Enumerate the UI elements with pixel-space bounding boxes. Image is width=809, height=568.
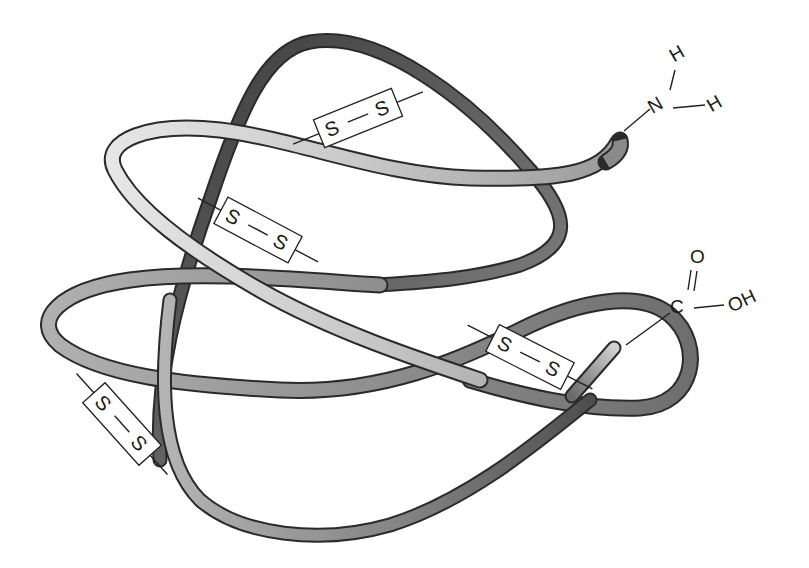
- atom-h1: H: [665, 41, 687, 66]
- protein-structure-diagram: N H H C O OH S S S S S S: [0, 0, 809, 568]
- bond-n-h1: [670, 70, 675, 90]
- bond-c-n: [624, 109, 650, 131]
- atom-c: C: [670, 296, 684, 317]
- atom-n: N: [644, 92, 666, 117]
- bond-chain-c: [626, 313, 670, 345]
- atom-h2: H: [703, 91, 725, 116]
- bond-c-o-1: [688, 270, 691, 290]
- bond-c-o-2: [694, 271, 697, 291]
- ribbon-c-terminal-tail: [572, 348, 614, 396]
- group-oh: OH: [724, 285, 759, 316]
- amino-terminus-group: N H H: [624, 41, 725, 131]
- atom-o: O: [690, 246, 705, 267]
- bond-c-oh: [694, 305, 724, 308]
- bond-n-h2: [673, 105, 705, 108]
